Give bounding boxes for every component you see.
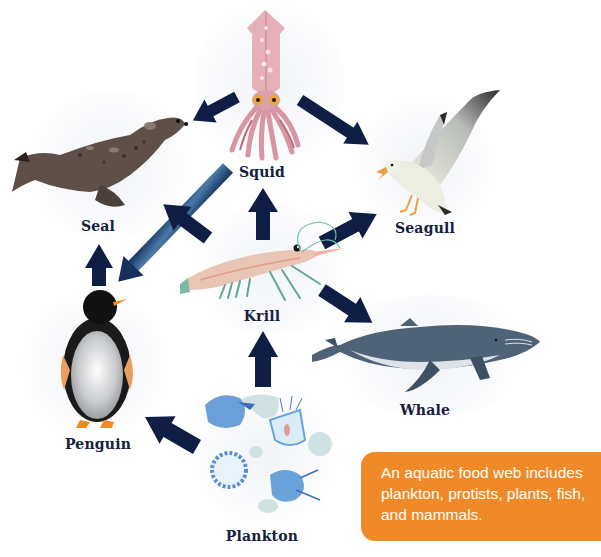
label-squid: Squid [239, 164, 285, 180]
plankton-illustration [205, 394, 332, 513]
arrow-krill-to-whale [314, 277, 381, 335]
arrow-plankton-to-penguin [137, 403, 205, 461]
penguin-illustration [61, 290, 133, 428]
caption-text: An aquatic food web includes plankton, p… [381, 462, 596, 525]
label-plankton: Plankton [226, 528, 298, 544]
arrow-penguin-to-seal [85, 244, 113, 286]
whale-illustration [312, 318, 540, 392]
seagull-illustration [376, 90, 500, 215]
arrow-krill-to-seagull [315, 201, 384, 257]
arrow-squid-to-seal [187, 86, 243, 132]
label-whale: Whale [400, 402, 450, 418]
label-seagull: Seagull [395, 220, 455, 236]
seal-illustration [12, 118, 188, 207]
label-krill: Krill [244, 308, 281, 324]
label-seal: Seal [81, 218, 115, 234]
label-penguin: Penguin [65, 436, 131, 452]
arrow-krill-to-squid [248, 188, 278, 240]
arrow-squid-to-seagull [293, 89, 376, 155]
squid-illustration [232, 10, 298, 158]
caption-box: An aquatic food web includes plankton, p… [361, 452, 601, 541]
arrow-plankton-to-krill [248, 331, 278, 387]
